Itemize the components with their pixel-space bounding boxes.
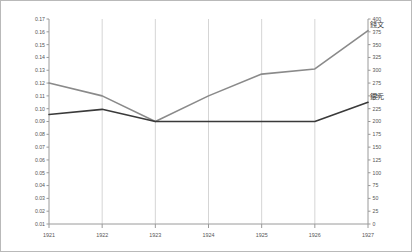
y-axis-right-tick-label: 175 — [373, 131, 382, 137]
y-axis-left-tick-label: 0.06 — [35, 157, 45, 163]
series-label-錢文: 錢文 — [370, 20, 384, 29]
y-axis-right-tick-label: 275 — [373, 80, 382, 86]
y-axis-left-tick-label: 0.11 — [35, 93, 45, 99]
y-axis-left-tick-label: 0.05 — [35, 170, 45, 176]
y-axis-right-tick-label: 75 — [373, 182, 379, 188]
y-axis-left-tick-label: 0.14 — [35, 54, 45, 60]
y-axis-right-tick-label: 200 — [373, 118, 382, 124]
chart-figure: 0.170.160.150.140.130.120.110.100.090.08… — [0, 0, 412, 252]
x-axis-tick-label: 1925 — [256, 232, 268, 238]
y-axis-left-tick-label: 0.04 — [35, 182, 45, 188]
y-axis-left-tick-label: 0.16 — [35, 29, 45, 35]
line-chart-svg: 0.170.160.150.140.130.120.110.100.090.08… — [1, 1, 412, 252]
series-label-銀元: 銀元 — [370, 92, 384, 101]
y-axis-right-tick-label: 350 — [373, 42, 382, 48]
y-axis-right-tick-label: 125 — [373, 157, 382, 163]
y-axis-right-tick-label: 100 — [373, 170, 382, 176]
x-axis-tick-label: 1927 — [362, 232, 374, 238]
x-axis-tick-label: 1922 — [96, 232, 108, 238]
x-axis-tick-label: 1926 — [309, 232, 321, 238]
y-axis-right-tick-label: 225 — [373, 106, 382, 112]
y-axis-right-tick-label: 25 — [373, 208, 379, 214]
x-axis-tick-label: 1921 — [43, 232, 55, 238]
y-axis-left-tick-label: 0.17 — [35, 16, 45, 22]
y-axis-left-tick-label: 0.09 — [35, 118, 45, 124]
x-axis-tick-label: 1924 — [203, 232, 215, 238]
y-axis-left-tick-label: 0.07 — [35, 144, 45, 150]
y-axis-left-tick-label: 0.12 — [35, 80, 45, 86]
y-axis-left-tick-label: 0.13 — [35, 67, 45, 73]
y-axis-right-tick-label: 300 — [373, 67, 382, 73]
y-axis-left-tick-label: 0.02 — [35, 208, 45, 214]
y-axis-left-tick-label: 0.08 — [35, 131, 45, 137]
y-axis-right-tick-label: 0 — [373, 221, 376, 227]
y-axis-left-tick-label: 0.03 — [35, 195, 45, 201]
x-axis-tick-label: 1923 — [149, 232, 161, 238]
y-axis-right-tick-label: 375 — [373, 29, 382, 35]
y-axis-right-tick-label: 50 — [373, 195, 379, 201]
y-axis-right-tick-label: 325 — [373, 54, 382, 60]
y-axis-left-tick-label: 0.01 — [35, 221, 45, 227]
y-axis-left-tick-label: 0.10 — [35, 106, 45, 112]
y-axis-left-tick-label: 0.15 — [35, 42, 45, 48]
chart-plot-area: 0.170.160.150.140.130.120.110.100.090.08… — [1, 1, 412, 252]
y-axis-right-tick-label: 150 — [373, 144, 382, 150]
